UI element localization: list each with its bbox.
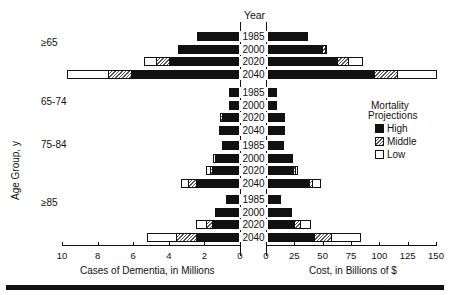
year-label: 2040 [239,69,268,80]
cost-bar-high [267,45,323,54]
right-tick [294,242,295,246]
right-tick-label: 125 [393,250,423,261]
legend-low-label: Low [387,150,405,160]
group-label-85plus: ≥85 [41,198,58,208]
cases-bar-high [215,208,240,217]
right-tick-label: 100 [364,250,394,261]
cases-bar-high [131,70,240,79]
cases-bar-high [222,141,240,150]
cost-bar-high [267,154,293,163]
right-tick [379,242,380,246]
cases-bar-high [222,113,240,122]
right-x-label: Cost, in Billions of $ [309,266,397,276]
year-label: 1985 [239,140,268,151]
right-tick-label: 150 [421,250,451,261]
cases-bar-high [169,57,240,66]
group-label-65-74: 65-74 [41,97,67,107]
cases-bar-high [212,166,240,175]
cases-bar-high [215,154,240,163]
cost-bar-high [267,113,284,122]
left-tick [133,242,134,246]
year-label: 1985 [239,31,268,42]
cost-bar-high [267,70,375,79]
y-axis-label: Age Group, y [10,141,21,200]
legend-middle-label: Middle [387,137,416,147]
left-tick-label: 6 [118,250,148,261]
left-tick-label: 10 [47,250,77,261]
left-tick [204,242,205,246]
right-tick-label: 0 [251,250,281,261]
right-tick-label: 25 [279,250,309,261]
right-tick-label: 75 [336,250,366,261]
cost-bar-high [267,220,295,229]
cases-bar-high [212,220,240,229]
cost-bar-high [267,88,277,97]
cases-bar-high [196,233,241,242]
group-label-65plus: ≥65 [41,38,58,48]
cost-bar-high [267,32,308,41]
right-tick-label: 50 [308,250,338,261]
left-tick [62,242,63,246]
right-tick [436,242,437,246]
year-label: 2000 [239,153,268,164]
cost-bar-high [267,57,338,66]
legend-high-label: High [387,124,408,134]
legend-high-swatch [375,124,384,133]
left-tick [98,242,99,246]
right-tick [408,242,409,246]
right-tick [323,242,324,246]
left-x-label: Cases of Dementia, in Millions [80,266,215,276]
left-tick-label: 2 [189,250,219,261]
year-label: 2020 [239,219,268,230]
left-tick-label: 8 [83,250,113,261]
left-tick [169,242,170,246]
cases-bar-high [179,45,240,54]
cost-bar-high [267,166,294,175]
cost-bar-high [267,141,284,150]
group-label-75-84: 75-84 [41,140,67,150]
year-header: Year [240,10,269,20]
legend-low-swatch [375,150,384,159]
legend-title-2: Projections [368,111,417,121]
right-tick [266,242,267,246]
year-label: 2040 [239,125,268,136]
year-label: 2000 [239,100,268,111]
cost-bar-high [267,208,292,217]
year-label: 1985 [239,87,268,98]
bottom-rule [6,285,444,290]
year-label: 2040 [239,178,268,189]
cases-bar-high [197,32,240,41]
year-label: 2000 [239,207,268,218]
year-label: 2020 [239,56,268,67]
right-tick [351,242,352,246]
year-label: 2000 [239,44,268,55]
cases-bar-high [196,179,241,188]
year-label: 2020 [239,112,268,123]
left-x-axis [62,245,241,246]
legend-middle-swatch [375,137,384,146]
cost-bar-high [267,101,277,110]
year-label: 2020 [239,165,268,176]
cost-bar-high [267,195,281,204]
cost-bar-high [267,179,310,188]
year-label: 2040 [239,232,268,243]
left-tick [240,242,241,246]
cases-bar-high [226,195,240,204]
cost-bar-high [267,126,284,135]
year-label: 1985 [239,194,268,205]
cost-bar-high [267,233,315,242]
left-tick-label: 4 [154,250,184,261]
cases-bar-high [220,126,240,135]
